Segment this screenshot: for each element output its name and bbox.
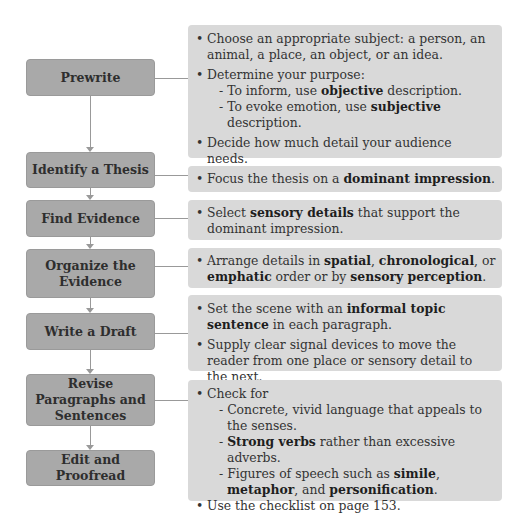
connector-line — [155, 78, 188, 79]
step-prewrite: Prewrite — [26, 59, 155, 96]
connector-line — [155, 400, 188, 401]
sub-bullet: - Figures of speech such as simile, meta… — [207, 466, 496, 498]
bullet: Focus the thesis on a dominant impressio… — [196, 171, 496, 187]
step-label: Revise Paragraphs and Sentences — [27, 376, 154, 424]
flow-line — [90, 298, 91, 308]
step-organize-evidence: Organize the Evidence — [26, 249, 155, 298]
step-revise: Revise Paragraphs and Sentences — [26, 374, 155, 426]
connector-line — [155, 218, 188, 219]
bullet: Select sensory details that support the … — [196, 205, 496, 237]
bullet-text: Decide how much detail your audience nee… — [207, 135, 452, 166]
bullet-text: Determine your purpose: — [207, 67, 365, 82]
flow-line — [90, 426, 91, 445]
flow-line — [90, 96, 91, 147]
detail-organize: Arrange details in spatial, chronologica… — [188, 248, 502, 288]
step-identify-thesis: Identify a Thesis — [26, 152, 155, 188]
detail-revise: Check for - Concrete, vivid language tha… — [188, 380, 502, 501]
bullet-text: Choose an appropriate subject: a person,… — [207, 31, 485, 62]
sub-bullet: - To evoke emotion, use subjective descr… — [207, 99, 496, 131]
connector-line — [155, 175, 188, 176]
bullet: Use the checklist on page 153. — [196, 498, 496, 514]
connector-line — [155, 333, 188, 334]
step-label: Find Evidence — [41, 211, 140, 227]
detail-evidence: Select sensory details that support the … — [188, 200, 502, 240]
sub-bullet: - Strong verbs rather than excessive adv… — [207, 434, 496, 466]
sub-bullet: - To inform, use objective description. — [207, 83, 496, 99]
bullet: Check for - Concrete, vivid language tha… — [196, 386, 496, 498]
step-write-draft: Write a Draft — [26, 313, 155, 350]
flow-line — [90, 350, 91, 369]
step-label: Edit and Proofread — [27, 452, 154, 484]
detail-thesis: Focus the thesis on a dominant impressio… — [188, 166, 502, 192]
step-find-evidence: Find Evidence — [26, 200, 155, 237]
bullet: Determine your purpose: - To inform, use… — [196, 67, 496, 131]
bullet: Choose an appropriate subject: a person,… — [196, 31, 496, 63]
bullet: Supply clear signal devices to move the … — [196, 337, 496, 385]
flow-line — [90, 237, 91, 244]
sub-bullet: - Concrete, vivid language that appeals … — [207, 402, 496, 434]
connector-line — [155, 266, 188, 267]
bullet: Set the scene with an informal topic sen… — [196, 301, 496, 333]
detail-prewrite: Choose an appropriate subject: a person,… — [188, 25, 502, 158]
step-label: Identify a Thesis — [32, 162, 149, 178]
step-label: Organize the Evidence — [41, 258, 140, 290]
step-edit-proofread: Edit and Proofread — [26, 450, 155, 486]
step-label: Prewrite — [61, 70, 121, 86]
bullet: Arrange details in spatial, chronologica… — [196, 253, 496, 285]
detail-draft: Set the scene with an informal topic sen… — [188, 295, 502, 371]
bullet: Decide how much detail your audience nee… — [196, 135, 496, 167]
step-label: Write a Draft — [44, 324, 136, 340]
